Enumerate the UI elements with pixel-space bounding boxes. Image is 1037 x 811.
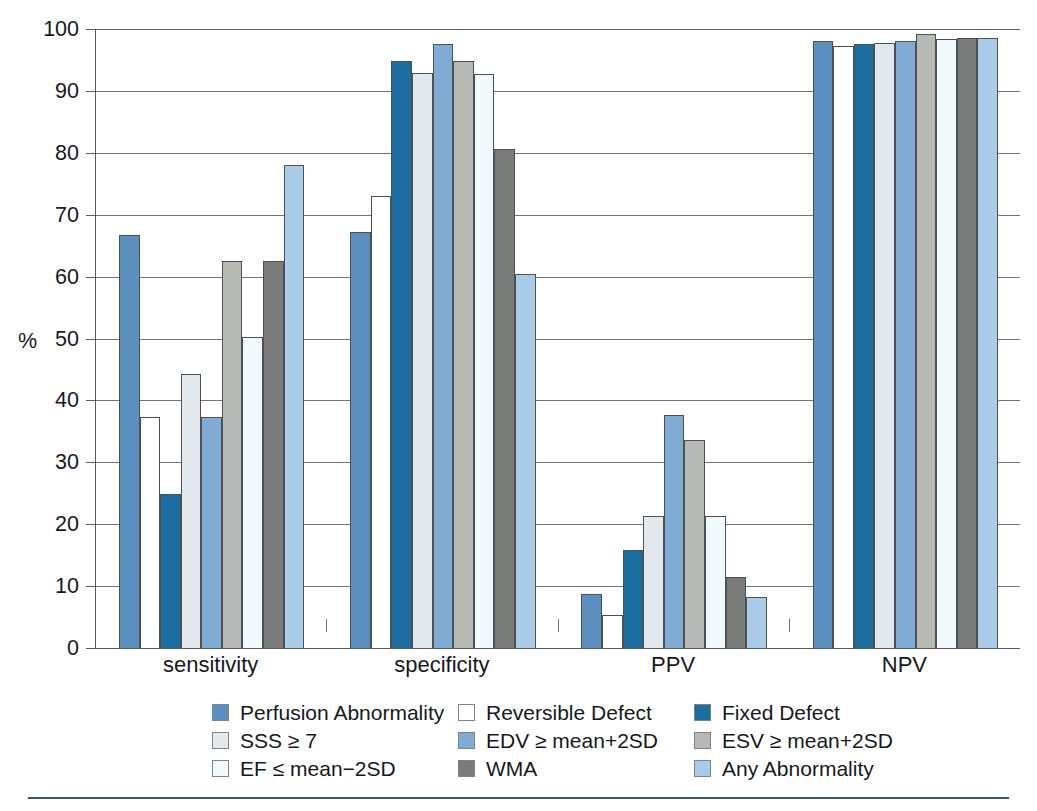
bar[interactable]	[494, 149, 515, 648]
bar[interactable]	[746, 597, 767, 648]
bars	[813, 29, 998, 648]
y-tick-mark-70	[86, 215, 96, 216]
legend-swatch-icon	[458, 704, 475, 721]
bar[interactable]	[474, 74, 495, 648]
y-tick-label-40: 40	[1, 388, 79, 413]
legend-row: Perfusion AbnormalityReversible DefectFi…	[212, 698, 1012, 726]
y-tick-mark-50	[86, 339, 96, 340]
legend-label: Reversible Defect	[486, 702, 652, 723]
legend-label: Perfusion Abnormality	[240, 702, 444, 723]
bar[interactable]	[350, 232, 371, 648]
x-axis-label-specificity: specificity	[394, 652, 489, 678]
bar[interactable]	[181, 374, 202, 648]
y-tick-label-80: 80	[1, 140, 79, 165]
bar[interactable]	[242, 337, 263, 648]
legend-label: EDV ≥ mean+2SD	[486, 730, 658, 751]
bars	[119, 29, 304, 648]
bars	[581, 29, 766, 648]
legend-item[interactable]: Reversible Defect	[458, 698, 694, 726]
x-tick-mark-1	[326, 619, 327, 632]
legend-item[interactable]: Fixed Defect	[694, 698, 934, 726]
x-tick-mark-2	[558, 619, 559, 632]
legend-swatch-icon	[458, 760, 475, 777]
bar[interactable]	[284, 165, 305, 648]
legend-item[interactable]: Any Abnormality	[694, 754, 934, 782]
bar[interactable]	[140, 417, 161, 649]
y-tick-label-70: 70	[1, 202, 79, 227]
bar[interactable]	[854, 44, 875, 648]
legend-label: ESV ≥ mean+2SD	[722, 730, 893, 751]
y-tick-mark-90	[86, 91, 96, 92]
bar[interactable]	[664, 415, 685, 648]
bar[interactable]	[201, 417, 222, 648]
bar[interactable]	[623, 550, 644, 648]
legend-label: Fixed Defect	[722, 702, 840, 723]
bar[interactable]	[874, 43, 895, 648]
x-axis-label-ppv: PPV	[651, 652, 695, 678]
bar[interactable]	[515, 274, 536, 648]
bar[interactable]	[602, 615, 623, 648]
bar[interactable]	[684, 440, 705, 648]
bar[interactable]	[371, 196, 392, 648]
bar[interactable]	[895, 41, 916, 648]
bar[interactable]	[813, 41, 834, 648]
legend-item[interactable]: Perfusion Abnormality	[212, 698, 458, 726]
legend-row: SSS ≥ 7EDV ≥ mean+2SDESV ≥ mean+2SD	[212, 726, 1012, 754]
bar[interactable]	[936, 39, 957, 648]
bar[interactable]	[222, 261, 243, 648]
y-tick-mark-0	[86, 648, 96, 649]
chart-legend: Perfusion AbnormalityReversible DefectFi…	[212, 698, 1012, 782]
bar[interactable]	[433, 44, 454, 648]
y-tick-mark-10	[86, 586, 96, 587]
x-axis-label-sensitivity: sensitivity	[163, 652, 258, 678]
bar[interactable]	[643, 516, 664, 648]
bar[interactable]	[453, 61, 474, 648]
y-tick-label-10: 10	[1, 574, 79, 599]
y-tick-label-30: 30	[1, 450, 79, 475]
bar[interactable]	[977, 38, 998, 648]
legend-swatch-icon	[212, 704, 229, 721]
legend-label: EF ≤ mean−2SD	[240, 758, 396, 779]
bar[interactable]	[391, 61, 412, 648]
legend-swatch-icon	[212, 760, 229, 777]
y-tick-mark-80	[86, 153, 96, 154]
y-tick-label-100: 100	[1, 17, 79, 42]
legend-item[interactable]: EDV ≥ mean+2SD	[458, 726, 694, 754]
y-tick-mark-60	[86, 277, 96, 278]
legend-row: EF ≤ mean−2SDWMAAny Abnormality	[212, 754, 1012, 782]
bar[interactable]	[916, 34, 937, 648]
y-tick-label-60: 60	[1, 264, 79, 289]
bar[interactable]	[833, 46, 854, 648]
y-tick-mark-40	[86, 400, 96, 401]
bar[interactable]	[119, 235, 140, 648]
bars	[350, 29, 535, 648]
bar[interactable]	[957, 38, 978, 648]
legend-swatch-icon	[694, 704, 711, 721]
bar[interactable]	[412, 73, 433, 648]
bar[interactable]	[581, 594, 602, 648]
legend-label: Any Abnormality	[722, 758, 874, 779]
bottom-divider	[28, 797, 1009, 799]
bar[interactable]	[705, 516, 726, 648]
bar[interactable]	[160, 494, 181, 648]
bar[interactable]	[263, 261, 284, 648]
legend-swatch-icon	[458, 732, 475, 749]
bar-group-sensitivity	[96, 29, 327, 648]
y-tick-mark-100	[86, 29, 96, 30]
bar-group-ppv	[559, 29, 790, 648]
plot-area: 0102030405060708090100	[95, 29, 1020, 648]
legend-label: SSS ≥ 7	[240, 730, 317, 751]
y-tick-mark-20	[86, 524, 96, 525]
y-tick-label-20: 20	[1, 512, 79, 537]
x-tick-mark-3	[789, 619, 790, 632]
x-axis-label-npv: NPV	[882, 652, 927, 678]
bar-chart-figure: % 0102030405060708090100 sensitivityspec…	[0, 0, 1037, 811]
legend-item[interactable]: ESV ≥ mean+2SD	[694, 726, 934, 754]
legend-item[interactable]: WMA	[458, 754, 694, 782]
bar[interactable]	[726, 577, 747, 648]
y-tick-label-90: 90	[1, 78, 79, 103]
y-tick-label-0: 0	[1, 636, 79, 661]
legend-item[interactable]: SSS ≥ 7	[212, 726, 458, 754]
legend-swatch-icon	[694, 732, 711, 749]
legend-item[interactable]: EF ≤ mean−2SD	[212, 754, 458, 782]
